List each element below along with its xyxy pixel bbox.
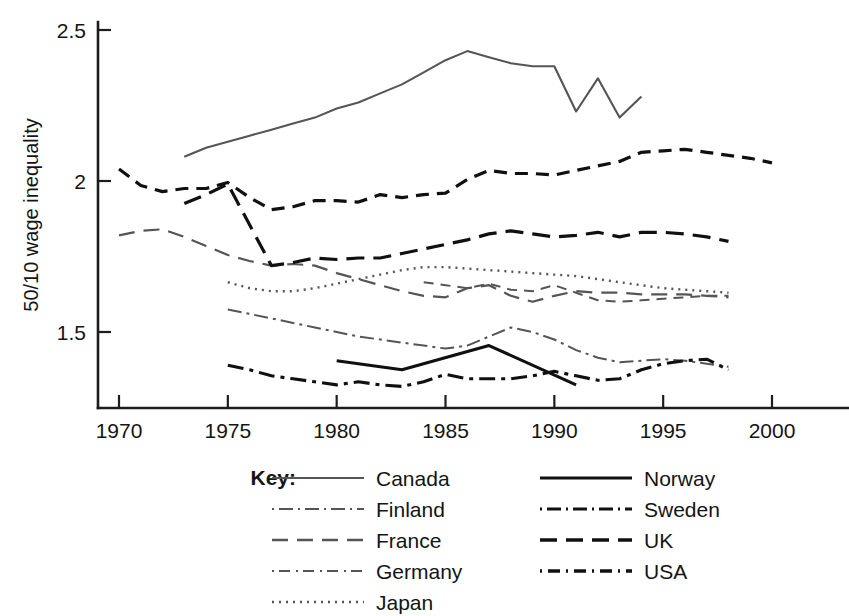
series-line-uk [184, 184, 728, 266]
y-axis-tick-label: 1.5 [57, 321, 86, 344]
legend-item-uk[interactable]: UK [540, 529, 673, 552]
x-axis-tick-label: 2000 [749, 419, 796, 442]
y-axis-tick-label: 2.5 [57, 19, 86, 42]
x-axis-tick-label: 1985 [422, 419, 469, 442]
y-axis-label: 50/10 wage inequality [20, 118, 42, 311]
x-axis-tick-label: 1980 [313, 419, 360, 442]
wage-inequality-chart: 1.522.5197019751980198519901995200050/10… [0, 0, 849, 616]
series-line-sweden [228, 359, 729, 386]
legend-label-canada: Canada [376, 467, 450, 490]
legend-label-usa: USA [644, 560, 687, 583]
chart-legend: Key:CanadaFinlandFranceGermanyJapanNorwa… [250, 466, 719, 614]
legend-item-japan[interactable]: Japan [272, 591, 433, 614]
x-axis-tick-label: 1975 [204, 419, 251, 442]
legend-label-uk: UK [644, 529, 673, 552]
y-axis-tick-label: 2 [74, 170, 86, 193]
legend-item-sweden[interactable]: Sweden [540, 498, 720, 521]
series-lines [119, 51, 772, 386]
legend-item-finland[interactable]: Finland [272, 498, 445, 521]
x-axis-tick-label: 1990 [531, 419, 578, 442]
series-line-japan [228, 267, 729, 293]
series-line-canada [184, 51, 641, 157]
series-line-finland [228, 309, 729, 366]
legend-label-finland: Finland [376, 498, 445, 521]
legend-label-japan: Japan [376, 591, 433, 614]
legend-label-norway: Norway [644, 467, 716, 490]
legend-label-germany: Germany [376, 560, 463, 583]
series-line-norway [337, 346, 576, 385]
series-line-usa [119, 149, 772, 209]
series-line-france [119, 229, 729, 301]
legend-label-france: France [376, 529, 441, 552]
series-line-germany [424, 282, 729, 302]
legend-item-germany[interactable]: Germany [272, 560, 463, 583]
legend-item-usa[interactable]: USA [540, 560, 687, 583]
legend-label-sweden: Sweden [644, 498, 720, 521]
legend-item-france[interactable]: France [272, 529, 441, 552]
x-axis-tick-label: 1995 [640, 419, 687, 442]
legend-item-canada[interactable]: Canada [272, 467, 450, 490]
x-axis-tick-label: 1970 [96, 419, 143, 442]
legend-item-norway[interactable]: Norway [540, 467, 716, 490]
chart-canvas: 1.522.5197019751980198519901995200050/10… [0, 0, 849, 616]
